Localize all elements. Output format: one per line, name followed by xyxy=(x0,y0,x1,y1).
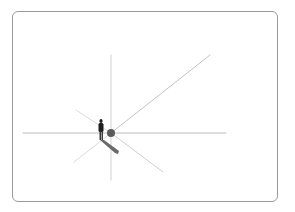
center-marker xyxy=(107,129,115,137)
ray-down-right xyxy=(111,133,163,172)
ray-up-left xyxy=(76,110,111,133)
ray-down-left xyxy=(74,133,111,162)
scene-illustration xyxy=(0,0,295,212)
person-shadow xyxy=(100,140,119,154)
ray-up-right xyxy=(111,55,210,133)
person-figure xyxy=(99,119,104,140)
radiating-lines xyxy=(23,55,226,180)
